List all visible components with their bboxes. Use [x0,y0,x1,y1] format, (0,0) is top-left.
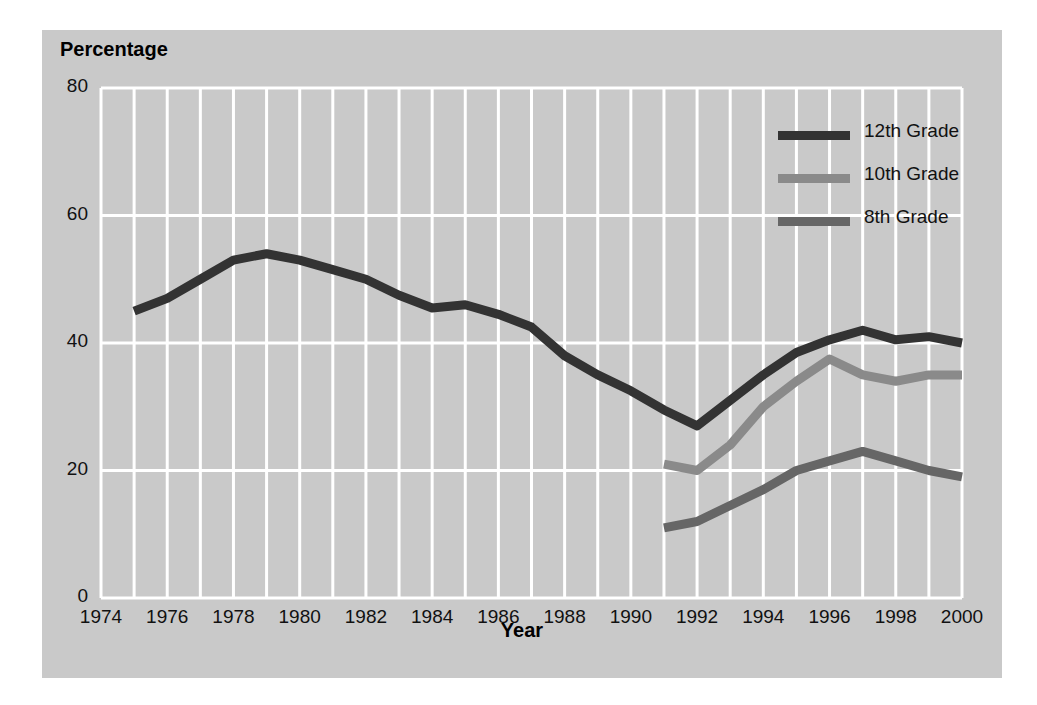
legend-swatch-1 [778,131,850,140]
legend-swatch-2 [778,174,850,183]
y-axis-title: Percentage [60,38,168,61]
x-tick-label: 1976 [132,606,202,628]
y-tick-label: 0 [42,585,88,607]
legend-label-3: 8th Grade [864,206,949,228]
x-tick-label: 1988 [530,606,600,628]
series-line-1 [134,254,962,426]
legend-label-2: 10th Grade [864,163,959,185]
y-tick-label: 40 [42,330,88,352]
x-tick-label: 2000 [927,606,997,628]
x-tick-label: 1982 [331,606,401,628]
chart-figure: Percentage Year 020406080 19741976197819… [42,30,1002,678]
legend-label-1: 12th Grade [864,120,959,142]
x-tick-label: 1994 [728,606,798,628]
x-tick-label: 1998 [861,606,931,628]
chart-plot-area [42,30,1002,678]
x-tick-label: 1984 [397,606,467,628]
x-tick-label: 1974 [66,606,136,628]
x-tick-label: 1978 [198,606,268,628]
x-tick-label: 1992 [662,606,732,628]
y-tick-label: 60 [42,203,88,225]
x-tick-label: 1990 [596,606,666,628]
x-tick-label: 1996 [795,606,865,628]
y-tick-label: 80 [42,75,88,97]
x-tick-label: 1986 [463,606,533,628]
x-tick-label: 1980 [265,606,335,628]
y-tick-label: 20 [42,458,88,480]
legend-swatch-3 [778,217,850,226]
